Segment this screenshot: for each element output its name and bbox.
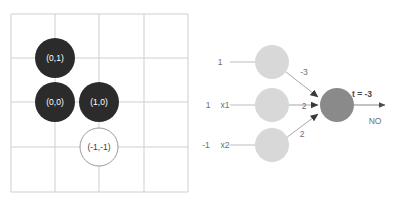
grid-svg: (0,1) (0,0) (1,0) (-1,-1) xyxy=(0,0,200,206)
point-label: (1,0) xyxy=(90,97,108,107)
input-value-x1: 1 xyxy=(206,100,211,110)
input-node-x1[interactable] xyxy=(255,88,289,122)
input-node-x2[interactable] xyxy=(255,128,289,162)
data-point-0-1[interactable]: (0,1) xyxy=(35,38,75,78)
weight-label-bias: -3 xyxy=(300,67,308,77)
output-node[interactable] xyxy=(320,88,354,122)
figure-root: (0,1) (0,0) (1,0) (-1,-1) xyxy=(0,0,400,206)
input-node-bias[interactable] xyxy=(255,45,289,79)
data-point-minus1-minus1[interactable]: (-1,-1) xyxy=(80,128,118,166)
output-decision-label: NO xyxy=(369,116,382,126)
network-panel: 1 1 -1 x1 x2 -3 2 2 t = -3 NO xyxy=(200,0,400,206)
data-point-1-0[interactable]: (1,0) xyxy=(79,82,119,122)
input-value-x2: -1 xyxy=(202,140,210,150)
input-lead-lines xyxy=(230,62,256,145)
output-total-label: t = -3 xyxy=(352,89,372,99)
point-label: (0,0) xyxy=(46,97,64,107)
weight-label-x1: 2 xyxy=(302,101,307,111)
point-label: (-1,-1) xyxy=(87,142,110,152)
weight-label-x2: 2 xyxy=(300,129,305,139)
input-value-bias: 1 xyxy=(218,57,223,67)
network-svg: 1 1 -1 x1 x2 -3 2 2 t = -3 NO xyxy=(200,0,400,206)
point-label: (0,1) xyxy=(46,53,64,63)
grid-panel: (0,1) (0,0) (1,0) (-1,-1) xyxy=(0,0,200,206)
input-name-x2: x2 xyxy=(221,140,230,150)
input-name-x1: x1 xyxy=(221,100,230,110)
data-point-0-0[interactable]: (0,0) xyxy=(35,82,75,122)
